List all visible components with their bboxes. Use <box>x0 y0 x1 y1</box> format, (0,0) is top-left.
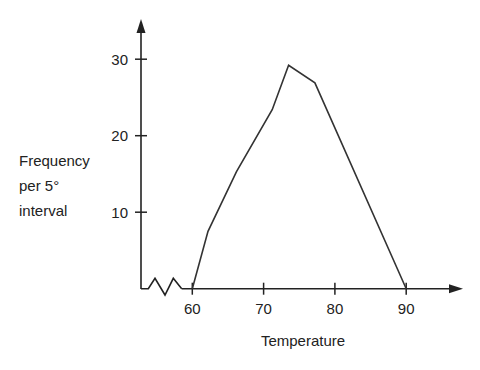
y-axis-arrow-icon <box>137 19 146 33</box>
frequency-polygon-chart: 60708090102030 Temperature Frequency per… <box>0 0 480 370</box>
y-tick-label: 10 <box>111 204 128 221</box>
x-tick-label: 80 <box>327 300 344 317</box>
y-axis-label-line-1: Frequency <box>19 152 90 169</box>
y-tick-label: 30 <box>111 51 128 68</box>
y-axis-label-line-2: per 5° <box>19 177 59 194</box>
x-axis-label: Temperature <box>261 332 345 349</box>
data-line <box>192 65 406 288</box>
y-tick-label: 20 <box>111 127 128 144</box>
x-tick-label: 60 <box>184 300 201 317</box>
axis-ticks <box>135 59 406 295</box>
x-axis-arrow-icon <box>449 284 463 293</box>
x-tick-label: 70 <box>255 300 272 317</box>
y-axis-label-line-3: interval <box>19 202 67 219</box>
x-axis-break-icon <box>141 278 182 295</box>
x-tick-label: 90 <box>398 300 415 317</box>
tick-labels: 60708090102030 <box>111 51 414 317</box>
